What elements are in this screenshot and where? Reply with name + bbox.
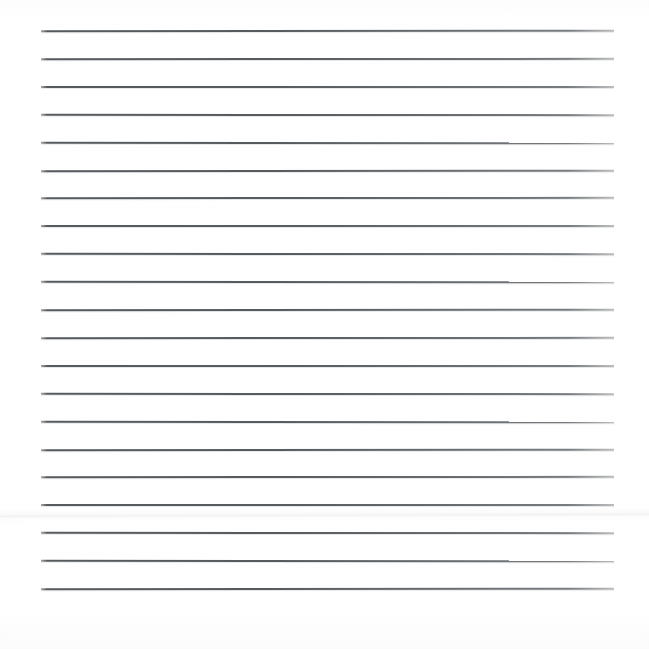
rule-line: [41, 225, 614, 227]
ruled-lines-group: [0, 0, 649, 649]
rule-line: [41, 393, 614, 395]
rule-line: [41, 169, 614, 172]
rule-line: [41, 58, 614, 60]
rule-line: [41, 420, 614, 423]
rule-line: [41, 504, 614, 506]
rule-line: [41, 448, 614, 451]
rule-line: [41, 281, 614, 284]
rule-line: [41, 114, 614, 116]
rule-line: [41, 588, 614, 591]
rule-line: [41, 253, 614, 255]
rule-line: [41, 532, 614, 534]
scanned-page: A scanned blank sheet of ruled (lined) p…: [0, 0, 649, 649]
rule-line: [41, 337, 614, 339]
rule-line: [41, 141, 614, 144]
rule-line: [41, 560, 614, 563]
rule-line: [41, 476, 614, 478]
rule-line: [41, 30, 614, 33]
rule-line: [41, 365, 614, 367]
rule-line: [41, 86, 614, 88]
rule-line: [41, 197, 614, 199]
rule-line: [41, 309, 614, 312]
